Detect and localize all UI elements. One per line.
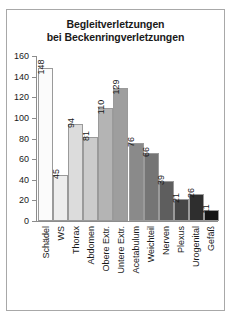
bar[interactable]: 148 [38,68,53,221]
x-axis-category-slot: Abdomen [83,224,98,310]
bar[interactable]: 66 [144,153,159,221]
y-axis-tick-label: 20 [7,195,29,205]
x-axis-category-label: Weichteil [146,226,157,262]
x-axis-category-slot: Nerven [159,224,174,310]
chart-title: Begleitverletzungen bei Beckenringverlet… [7,18,224,44]
x-axis-category-slot: WS [53,224,68,310]
y-axis-tick-label: 160 [7,51,29,61]
x-axis-category-labels: SchädelWSThoraxAbdomenObere Extr.Untere … [37,224,218,310]
x-axis-category-slot: Schädel [38,224,53,310]
y-axis-tick-label: 60 [7,154,29,164]
y-axis-tick-label: 100 [7,113,29,123]
x-axis-category-slot: Weichteil [144,224,159,310]
bar-group: 81 [83,56,98,221]
bar-value-label: 11 [201,204,211,213]
x-axis-category-label: Acetabulum [131,226,142,274]
bar-value-label: 94 [66,118,76,128]
bar-group: 148 [38,56,53,221]
y-axis-tick [32,97,36,98]
plot-area: 148459481110129766639212611 [37,56,218,221]
bar-value-label: 21 [171,193,181,203]
y-axis-tick-label: 120 [7,92,29,102]
chart-frame: Begleitverletzungen bei Beckenringverlet… [6,9,225,311]
bar[interactable]: 129 [113,88,128,221]
bar-group: 11 [204,56,219,221]
bar[interactable]: 110 [98,108,113,221]
bar[interactable]: 81 [83,137,98,221]
y-axis-tick [32,56,36,57]
bar-value-label: 66 [141,147,151,157]
x-axis-category-slot: Gefäß [204,224,219,310]
x-axis-category-label: Plexus [176,226,187,253]
y-axis-tick [32,200,36,201]
x-axis-category-label: Urogenital [191,226,202,267]
y-axis-tick [32,180,36,181]
x-axis-category-label: Thorax [71,226,82,254]
chart-title-line-2: bei Beckenringverletzungen [7,31,224,44]
bar-value-label: 110 [96,99,106,113]
x-axis-category-slot: Thorax [68,224,83,310]
bar-group: 26 [189,56,204,221]
bar[interactable]: 11 [204,210,219,221]
y-axis-tick [32,118,36,119]
bar-group: 66 [144,56,159,221]
x-axis-category-slot: Untere Extr. [113,224,128,310]
x-axis-category-label: Abdomen [86,226,97,265]
x-axis-category-label: Nerven [161,226,172,255]
bar-value-label: 148 [36,60,46,75]
y-axis-tick-label: 0 [7,216,29,226]
x-axis-category-slot: Obere Extr. [98,224,113,310]
x-axis-category-label: Schädel [41,226,52,259]
chart-title-line-1: Begleitverletzungen [7,18,224,31]
bar-group: 76 [129,56,144,221]
bar-group: 45 [53,56,68,221]
x-axis-category-label: WS [56,226,67,241]
bar-value-label: 81 [81,131,91,141]
y-axis-tick-label: 80 [7,134,29,144]
bar-value-label: 76 [126,137,136,147]
bar-value-label: 129 [111,79,121,94]
bar[interactable]: 45 [53,175,68,221]
bar-value-label: 39 [156,175,166,185]
x-axis-category-slot: Urogenital [189,224,204,310]
x-axis-line [36,221,218,222]
x-axis-category-label: Obere Extr. [101,226,112,272]
x-axis-category-label: Gefäß [206,226,217,251]
x-axis-category-slot: Acetabulum [129,224,144,310]
y-axis-tick-label: 140 [7,72,29,82]
y-axis-tick [32,77,36,78]
bar-value-label: 26 [186,188,196,198]
bar[interactable]: 21 [174,199,189,221]
x-axis-category-slot: Plexus [174,224,189,310]
y-axis-tick [32,139,36,140]
bar-value-label: 45 [51,169,61,179]
y-axis-tick-label: 40 [7,175,29,185]
x-axis-category-label: Untere Extr. [116,226,127,274]
y-axis-tick [32,221,36,222]
y-axis-tick [32,159,36,160]
